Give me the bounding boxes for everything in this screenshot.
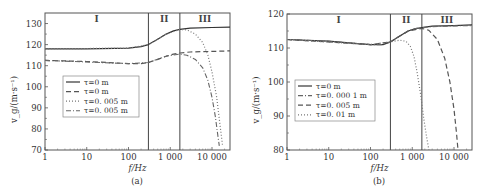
chart-a: IIIIII7080901001101201301101001 00010 00… [9, 13, 230, 186]
y-tick-label: 80 [31, 124, 42, 134]
y-tick-label: 110 [268, 43, 284, 53]
x-tick-label: 10 000 [439, 152, 469, 162]
y-tick-label: 90 [31, 103, 42, 113]
region-label: I [337, 15, 341, 25]
y-tick-label: 110 [26, 61, 42, 71]
y-axis-label: v_g/(m·s⁻¹) [251, 76, 262, 124]
chart-b: IIIIII80901001101201101001 00010 000f/Hz… [251, 9, 472, 186]
region-label: I [95, 14, 99, 24]
legend: τ=0 mτ=0 mτ=0. 005 mτ=0. 005 m [63, 76, 139, 117]
x-axis-label: f/Hz [128, 163, 147, 173]
y-axis-label: v_g/(m·s⁻¹) [9, 76, 20, 124]
figure-caption: (a) [131, 176, 143, 186]
region-label: II [402, 15, 410, 25]
x-tick-label: 10 [323, 152, 334, 162]
x-axis-label: f/Hz [370, 163, 389, 173]
x-tick-label: 100 [362, 152, 378, 162]
legend-entry: τ=0. 005 m [84, 106, 128, 115]
legend-entry: τ=0. 005 m [84, 97, 128, 106]
region-label: III [441, 15, 454, 25]
x-tick-label: 1 [284, 152, 289, 162]
figure: IIIIII7080901001101201301101001 00010 00… [0, 0, 480, 191]
legend-entry: τ=0 m [316, 82, 341, 91]
legend-entry: τ=0 m [84, 78, 109, 87]
y-tick-label: 100 [268, 77, 284, 87]
series-line [45, 27, 230, 49]
x-tick-label: 10 [81, 152, 92, 162]
y-tick-label: 120 [26, 40, 42, 50]
y-tick-label: 70 [31, 145, 42, 155]
legend-entry: τ=0 m [84, 87, 109, 96]
y-tick-label: 90 [273, 111, 284, 121]
legend-entry: τ=0. 01 m [316, 110, 355, 119]
y-tick-label: 100 [26, 82, 42, 92]
legend-entry: τ=0. 000 1 m [316, 91, 367, 100]
region-label: III [199, 14, 212, 24]
region-label: II [160, 14, 168, 24]
x-tick-label: 10 000 [197, 152, 227, 162]
y-tick-label: 130 [26, 19, 42, 29]
y-tick-label: 120 [268, 9, 284, 19]
legend-entry: τ=0. 005 m [316, 101, 360, 110]
legend: τ=0 mτ=0. 000 1 mτ=0. 005 mτ=0. 01 m [295, 80, 375, 121]
x-tick-label: 1 000 [400, 152, 424, 162]
figure-caption: (b) [373, 176, 385, 186]
x-tick-label: 1 000 [158, 152, 182, 162]
x-tick-label: 100 [120, 152, 136, 162]
x-tick-label: 1 [42, 152, 47, 162]
y-tick-label: 80 [273, 145, 284, 155]
